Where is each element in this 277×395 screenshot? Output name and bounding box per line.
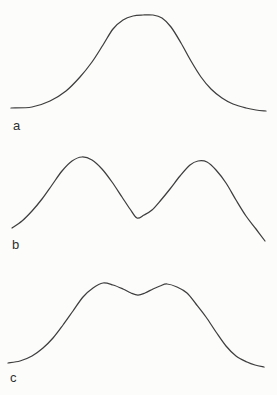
curve-c xyxy=(8,283,264,367)
panel-label-a: a xyxy=(13,119,20,132)
curves-figure xyxy=(0,0,277,395)
panel-label-b: b xyxy=(12,238,19,251)
curve-b xyxy=(12,157,265,241)
curve-a xyxy=(11,15,266,111)
figure-page: a b c xyxy=(0,0,277,395)
panel-label-c: c xyxy=(10,371,17,384)
